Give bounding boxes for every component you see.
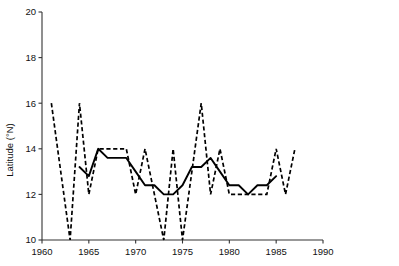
x-tick-label: 1970	[125, 246, 146, 257]
x-tick-label: 1985	[266, 246, 287, 257]
x-axis: 1960196519701975198019851990	[31, 240, 333, 257]
chart-canvas: 101214161820 196019651970197519801985199…	[0, 0, 399, 266]
x-tick-label: 1960	[31, 246, 52, 257]
y-axis-title: Latitude (°N)	[4, 123, 15, 176]
y-tick-label: 12	[25, 189, 36, 200]
x-tick-label: 1965	[78, 246, 99, 257]
series-line-annual	[51, 103, 295, 240]
y-tick-label: 14	[25, 143, 36, 154]
y-tick-label: 16	[25, 98, 36, 109]
y-tick-label: 10	[25, 234, 36, 245]
x-tick-label: 1975	[172, 246, 193, 257]
y-tick-label: 18	[25, 52, 36, 63]
data-series-group	[51, 103, 295, 240]
y-axis: 101214161820	[25, 6, 42, 245]
x-tick-label: 1990	[312, 246, 333, 257]
y-tick-label: 20	[25, 6, 36, 17]
x-tick-label: 1980	[219, 246, 240, 257]
chart-figure: 101214161820 196019651970197519801985199…	[0, 0, 399, 266]
